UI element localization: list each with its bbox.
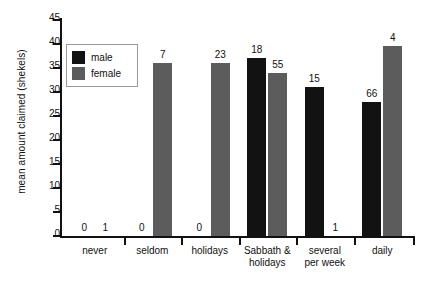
y-axis-tick-label: 40 xyxy=(34,36,60,47)
chart-figure: mean amount claimed (shekels) 0510152025… xyxy=(0,0,431,283)
bar-label-female-3: 55 xyxy=(262,59,293,70)
bar-female-3 xyxy=(268,73,287,236)
bar-label-female-1: 7 xyxy=(147,49,178,60)
bar-female-5 xyxy=(383,46,402,236)
y-axis-tick-row: 20 xyxy=(0,139,60,141)
legend-item-male: male xyxy=(72,49,132,65)
y-axis-tick-row: 40 xyxy=(0,43,60,45)
y-axis-tick-row: 15 xyxy=(0,163,60,165)
legend-label-male: male xyxy=(91,52,113,63)
bar-label-male-1: 0 xyxy=(126,222,157,233)
y-axis-tick-row: 5 xyxy=(0,211,60,213)
y-axis-tick-row: 45 xyxy=(0,19,60,21)
bar-label-female-5: 4 xyxy=(377,32,408,43)
legend-swatch-female-icon xyxy=(72,67,85,80)
x-axis-tick xyxy=(354,238,356,245)
bar-female-2 xyxy=(211,63,230,236)
y-axis-tick-label: 15 xyxy=(34,156,60,167)
bar-label-female-4: 1 xyxy=(320,222,351,233)
bar-label-female-0: 1 xyxy=(90,222,121,233)
x-axis-tick xyxy=(124,238,126,245)
y-axis-tick-label: 20 xyxy=(34,132,60,143)
bar-label-male-4: 15 xyxy=(299,73,330,84)
y-axis-tick-label: 5 xyxy=(34,204,60,215)
y-axis-tick-label: 30 xyxy=(34,84,60,95)
legend-item-female: female xyxy=(72,65,132,81)
bar-label-male-3: 18 xyxy=(241,44,272,55)
legend-label-female: female xyxy=(91,68,121,79)
y-axis-tick-row: 10 xyxy=(0,187,60,189)
y-axis-tick-label: 35 xyxy=(34,60,60,71)
bar-male-5 xyxy=(362,102,381,236)
y-axis-line xyxy=(60,18,62,238)
x-axis-tick xyxy=(181,238,183,245)
bar-label-female-2: 23 xyxy=(205,49,236,60)
y-axis-tick-label: 0 xyxy=(34,228,60,239)
bar-female-1 xyxy=(153,63,172,236)
y-axis-tick-row: 35 xyxy=(0,67,60,69)
y-axis-tick-row: 25 xyxy=(0,115,60,117)
y-axis-tick-label: 25 xyxy=(34,108,60,119)
x-axis-end-tick xyxy=(413,238,415,245)
bar-label-male-5: 66 xyxy=(356,88,387,99)
y-axis-title: mean amount claimed (shekels) xyxy=(16,22,27,222)
legend: male female xyxy=(66,44,138,87)
bar-male-3 xyxy=(247,58,266,236)
legend-swatch-male-icon xyxy=(72,51,85,64)
bar-label-male-2: 0 xyxy=(184,222,215,233)
category-label-5: daily xyxy=(348,245,418,257)
x-axis-tick xyxy=(296,238,298,245)
x-axis-tick xyxy=(239,238,241,245)
x-axis-line xyxy=(60,236,415,238)
y-axis-tick-row: 0 xyxy=(0,235,60,237)
y-axis-tick-row: 30 xyxy=(0,91,60,93)
y-axis-tick-label: 45 xyxy=(34,12,60,23)
y-axis-tick-label: 10 xyxy=(34,180,60,191)
bar-male-4 xyxy=(305,87,324,236)
